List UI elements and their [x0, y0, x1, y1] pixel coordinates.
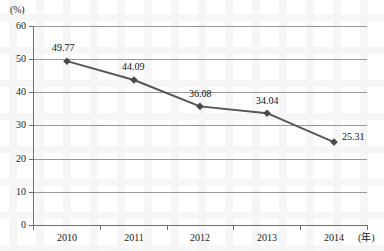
series-markers — [63, 57, 338, 145]
plot-area — [0, 0, 384, 251]
data-label-2010: 49.77 — [52, 42, 75, 53]
x-tick-label-2013: 2013 — [257, 232, 277, 243]
data-point-2010 — [63, 57, 71, 65]
data-point-2013 — [263, 109, 271, 117]
data-label-2011: 44.09 — [122, 61, 145, 72]
data-point-2012 — [196, 103, 204, 111]
data-label-2013: 34.04 — [256, 95, 279, 106]
data-label-2014: 25.31 — [342, 131, 365, 142]
x-axis-unit-label: (年) — [358, 232, 375, 243]
x-tick-label-2011: 2011 — [124, 232, 144, 243]
x-tick-label-2010: 2010 — [57, 232, 77, 243]
data-point-2011 — [130, 76, 138, 84]
data-label-2012: 36.08 — [189, 88, 212, 99]
data-point-2014 — [330, 138, 338, 146]
line-chart: (%) 60 50 40 30 20 10 0 — [0, 0, 384, 251]
y-axis-ticks — [29, 27, 33, 226]
series-line — [67, 61, 334, 142]
x-tick-label-2012: 2012 — [190, 232, 210, 243]
x-tick-label-2014: 2014 — [324, 232, 344, 243]
